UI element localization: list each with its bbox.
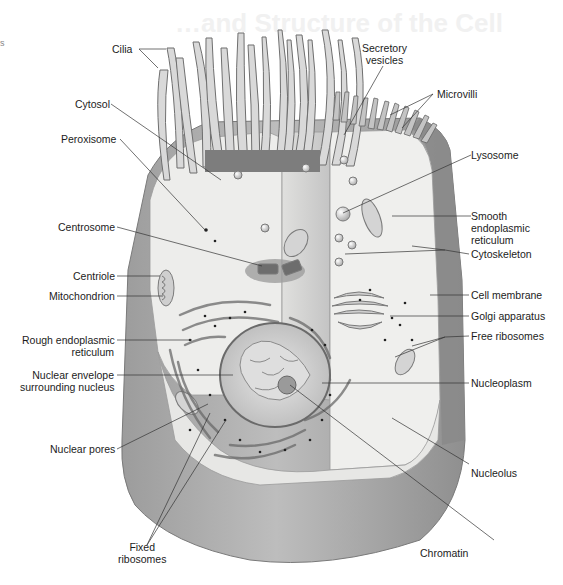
label-free-ribosomes: Free ribosomes <box>471 330 544 342</box>
label-cytosol: Cytosol <box>75 98 110 110</box>
label-fixed-ribosomes: Fixedribosomes <box>118 541 166 565</box>
label-smooth-er: Smoothendoplasmicreticulum <box>471 210 530 246</box>
nucleolus-shape <box>278 376 296 394</box>
label-chromatin: Chromatin <box>420 547 468 559</box>
label-secretory-vesicles: Secretoryvesicles <box>362 42 407 66</box>
label-cell-membrane: Cell membrane <box>471 289 542 301</box>
label-peroxisome: Peroxisome <box>61 133 116 145</box>
label-nucleolus: Nucleolus <box>471 467 517 479</box>
label-centrosome: Centrosome <box>58 221 115 233</box>
label-centriole: Centriole <box>73 270 115 282</box>
label-cilia: Cilia <box>112 43 132 55</box>
label-rough-er: Rough endoplasmicreticulum <box>22 334 114 358</box>
label-microvilli: Microvilli <box>437 88 477 100</box>
label-mitochondrion: Mitochondrion <box>49 290 115 302</box>
label-nuclear-envelope: Nuclear envelopesurrounding nucleus <box>20 369 114 393</box>
label-golgi-apparatus: Golgi apparatus <box>471 310 545 322</box>
label-lysosome: Lysosome <box>471 149 518 161</box>
label-cytoskeleton: Cytoskeleton <box>471 248 532 260</box>
label-nuclear-pores: Nuclear pores <box>50 443 115 455</box>
label-nucleoplasm: Nucleoplasm <box>471 377 532 389</box>
nucleus <box>220 323 330 427</box>
